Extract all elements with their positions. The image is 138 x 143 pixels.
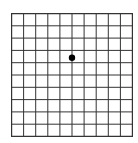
fixation-dot: [69, 55, 75, 61]
amsler-grid: [11, 13, 133, 137]
grid-lines: [11, 13, 133, 137]
